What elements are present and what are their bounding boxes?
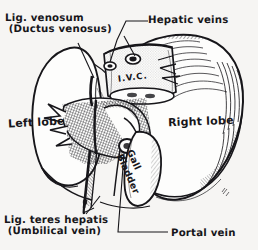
label-portal-vein: Portal vein (171, 228, 236, 239)
label-ligamentum-teres-hepatis: Lig. teres hepatis (Umbilical vein) (4, 215, 108, 237)
label-ligamentum-venosum: Lig. venosum (Ductus venosus) (5, 13, 112, 35)
label-hepatic-veins: Hepatic veins (148, 15, 229, 26)
artist-signature (222, 188, 229, 196)
label-right-lobe: Right lobe (168, 115, 234, 129)
